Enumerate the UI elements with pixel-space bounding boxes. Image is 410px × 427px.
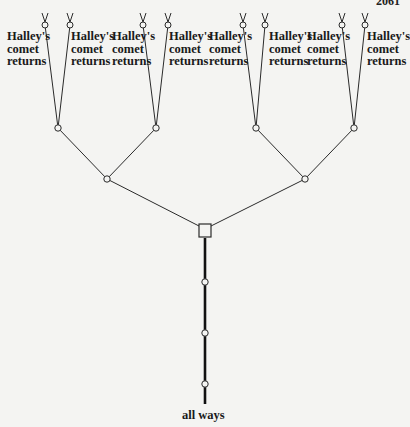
leaf-node <box>240 22 246 28</box>
branch-node <box>351 125 357 131</box>
edge <box>305 128 354 179</box>
leaf-label: Halley's comet returns <box>169 30 212 68</box>
trunk-node <box>202 381 208 387</box>
edge <box>211 179 305 226</box>
leaf-label-line: Halley's <box>112 30 155 43</box>
leaf-label-line: Halley's <box>209 30 252 43</box>
branch-node <box>253 125 259 131</box>
edge <box>58 128 107 179</box>
branch-node <box>302 176 308 182</box>
leaf-label-line: returns <box>367 55 410 68</box>
leaf-node <box>67 22 73 28</box>
leaf-label-line: returns <box>169 55 212 68</box>
leaf-tip-icons <box>42 13 368 22</box>
edge <box>256 128 305 179</box>
leaf-label: Halley's comet returns <box>71 30 114 68</box>
leaf-node <box>140 22 146 28</box>
leaf-label: Halley's comet returns <box>209 30 252 68</box>
leaf-label: Halley's comet returns <box>307 30 350 68</box>
leaf-label-line: returns <box>71 55 114 68</box>
leaf-label: Halley's comet returns <box>112 30 155 68</box>
branch-node <box>153 125 159 131</box>
trunk-node <box>202 330 208 336</box>
leaf-label-line: returns <box>112 55 155 68</box>
leaf-label: Halley's comet returns <box>367 30 410 68</box>
leaf-label-line: Halley's <box>367 30 410 43</box>
leaf-label-line: Halley's <box>307 30 350 43</box>
leaf-node <box>339 22 345 28</box>
trunk-node <box>202 279 208 285</box>
edge <box>107 128 156 179</box>
root-square-node <box>199 224 211 237</box>
page-number: 2061 <box>376 0 400 9</box>
leaf-label-line: Halley's <box>269 30 312 43</box>
edge <box>107 179 199 226</box>
leaf-label-line: Halley's <box>7 30 50 43</box>
branch-node <box>104 176 110 182</box>
leaf-label: Halley's comet returns <box>7 30 50 68</box>
leaf-label-line: returns <box>269 55 312 68</box>
leaf-label-line: returns <box>209 55 252 68</box>
edge <box>156 25 168 128</box>
leaf-label: Halley's comet returns <box>269 30 312 68</box>
leaf-label-line: Halley's <box>169 30 212 43</box>
edge <box>256 25 265 128</box>
leaf-label-line: Halley's <box>71 30 114 43</box>
root-label: all ways <box>182 408 225 423</box>
leaf-node <box>262 22 268 28</box>
leaf-node <box>42 22 48 28</box>
leaf-label-line: returns <box>307 55 350 68</box>
edge <box>354 25 365 128</box>
edge <box>58 25 70 128</box>
leaf-node <box>165 22 171 28</box>
leaf-label-line: returns <box>7 55 50 68</box>
branch-node <box>55 125 61 131</box>
leaf-node <box>362 22 368 28</box>
